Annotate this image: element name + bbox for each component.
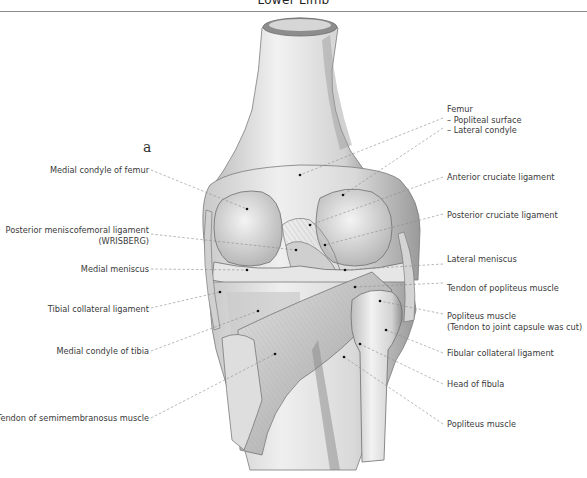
label-posterior-meniscofemoral-ligament: Posterior meniscofemoral ligament (WRISB…	[6, 225, 149, 246]
label-subline: – Popliteal surface	[447, 115, 522, 126]
label-medial-meniscus: Medial meniscus	[81, 264, 149, 275]
label-semimembranosus-tendon: Tendon of semimembranosus muscle	[0, 413, 149, 424]
label-femur: Femur – Popliteal surface – Lateral cond…	[447, 104, 522, 136]
label-medial-condyle-femur: Medial condyle of femur	[50, 165, 149, 176]
label-lateral-meniscus: Lateral meniscus	[447, 254, 517, 265]
label-line: Posterior meniscofemoral ligament	[6, 225, 149, 236]
label-popliteus-muscle-cut: Popliteus muscle (Tendon to joint capsul…	[447, 311, 582, 332]
label-posterior-cruciate-ligament: Posterior cruciate ligament	[447, 210, 558, 221]
label-line: Popliteus muscle	[447, 311, 582, 322]
label-tibial-collateral-ligament: Tibial collateral ligament	[48, 304, 149, 315]
label-subline: – Lateral condyle	[447, 125, 522, 136]
label-subline: (WRISBERG)	[6, 236, 149, 247]
label-subline: (Tendon to joint capsule was cut)	[447, 322, 582, 333]
label-fibular-collateral-ligament: Fibular collateral ligament	[447, 348, 554, 359]
label-line: Femur	[447, 104, 522, 115]
label-anterior-cruciate-ligament: Anterior cruciate ligament	[447, 172, 555, 183]
label-medial-condyle-tibia: Medial condyle of tibia	[56, 346, 149, 357]
label-popliteus-muscle: Popliteus muscle	[447, 419, 516, 430]
figure-letter: a	[143, 139, 151, 155]
label-head-of-fibula: Head of fibula	[447, 379, 504, 390]
label-popliteus-tendon: Tendon of popliteus muscle	[447, 283, 559, 294]
